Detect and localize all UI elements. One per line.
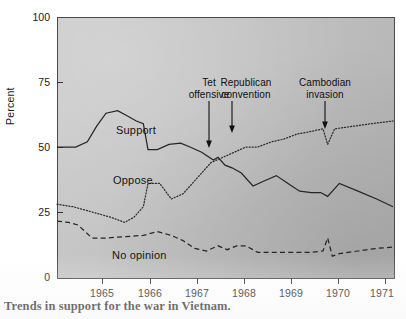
annotation-cambodian-invasion-line2: invasion <box>299 89 351 101</box>
x-tick-label-1965: 1965 <box>90 287 114 299</box>
y-tick-label-25: 25 <box>18 207 50 218</box>
annotation-republican-convention-line1: Republican <box>220 77 271 88</box>
x-tick-mark-1965 <box>102 278 103 284</box>
series-label-no-opinion: No opinion <box>112 249 167 261</box>
x-tick-mark-1971 <box>385 278 386 284</box>
plot-shading <box>58 18 394 278</box>
x-tick-mark-1970 <box>338 278 339 284</box>
y-tick-mark-25 <box>57 212 63 213</box>
x-tick-label-1967: 1967 <box>185 287 209 299</box>
plot-area <box>57 17 395 279</box>
x-tick-label-1969: 1969 <box>279 287 303 299</box>
x-tick-label-1968: 1968 <box>232 287 256 299</box>
x-tick-label-1971: 1971 <box>370 287 394 299</box>
series-label-oppose: Oppose <box>113 174 153 186</box>
annotation-cambodian-invasion-line1: Cambodian <box>299 77 351 88</box>
annotation-cambodian-invasion: Cambodian invasion <box>299 77 351 100</box>
x-tick-mark-1969 <box>291 278 292 284</box>
y-tick-mark-50 <box>57 147 63 148</box>
annotation-republican-convention: Republican convention <box>220 77 271 100</box>
x-tick-label-1966: 1966 <box>138 287 162 299</box>
x-tick-mark-1966 <box>150 278 151 284</box>
y-tick-label-75: 75 <box>18 77 50 88</box>
figure-caption: Trends in support for the war in Vietnam… <box>4 299 231 314</box>
annotation-republican-convention-line2: convention <box>220 89 271 101</box>
y-tick-label-0: 0 <box>18 272 50 283</box>
y-axis-label: Percent <box>4 111 16 125</box>
figure-vietnam-war-support: Percent 0 25 50 75 100 1965 1966 1967 19… <box>0 0 406 319</box>
y-tick-label-100: 100 <box>18 12 50 23</box>
x-tick-mark-1968 <box>244 278 245 284</box>
annotation-tet-offensive-line1: Tet <box>202 77 216 88</box>
y-tick-mark-75 <box>57 82 63 83</box>
x-tick-label-1970: 1970 <box>326 287 350 299</box>
y-tick-label-50: 50 <box>18 142 50 153</box>
series-label-support: Support <box>116 124 156 136</box>
x-tick-mark-1967 <box>197 278 198 284</box>
